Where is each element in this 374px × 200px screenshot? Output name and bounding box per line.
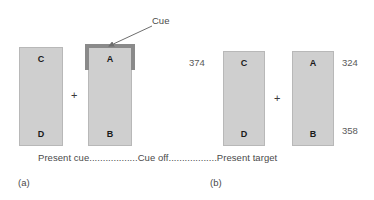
- cue-text-label: Cue: [152, 15, 169, 26]
- panel-b-label: (b): [210, 177, 222, 188]
- panel-b-fixation-cross: +: [274, 93, 280, 104]
- panel-a-left-rect-bottom-letter: D: [20, 129, 62, 139]
- panel-a-fixation-cross: +: [71, 90, 77, 101]
- panel-a-left-rectangle: C D: [19, 47, 63, 146]
- panel-a: C D + A B Cue (a): [0, 0, 187, 200]
- panel-b-right-rectangle: A B: [292, 51, 334, 146]
- cue-highlight-frame: [85, 44, 135, 70]
- panel-b-right-rect-top-value: 324: [342, 57, 358, 68]
- panel-b-left-rect-top-value: 374: [189, 57, 205, 68]
- panel-a-right-rect-bottom-letter: B: [89, 129, 131, 139]
- panel-b-left-rect-bottom-letter: D: [224, 129, 264, 139]
- panel-a-label: (a): [18, 177, 30, 188]
- panel-a-left-rect-top-letter: C: [20, 54, 62, 64]
- panel-b-left-rectangle: C D: [223, 51, 265, 146]
- panel-b-left-rect-top-letter: C: [224, 58, 264, 68]
- cueing-paradigm-figure: C D + A B Cue (a) 374: [0, 0, 374, 200]
- panel-b-right-rect-top-letter: A: [293, 58, 333, 68]
- panel-b-right-rect-bottom-value: 358: [342, 125, 358, 136]
- panel-b-right-rect-bottom-letter: B: [293, 129, 333, 139]
- panel-b: 374 C D + A B 324 358 (b): [187, 0, 374, 200]
- timeline-caption: Present cue..................Cue off....…: [38, 152, 277, 163]
